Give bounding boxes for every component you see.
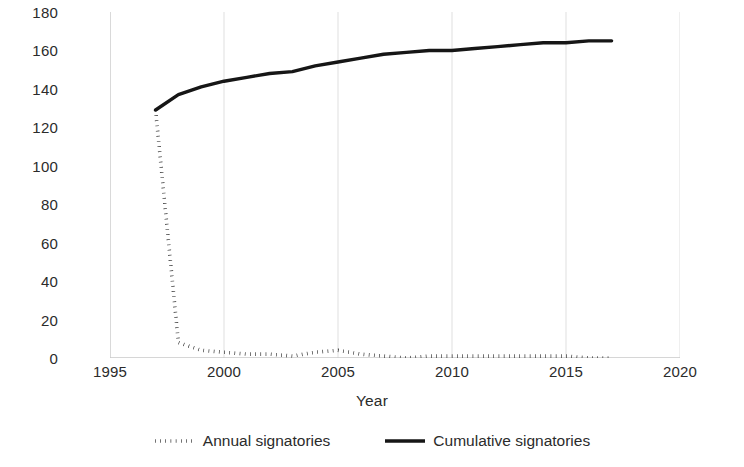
chart-legend: Annual signatories Cumulative signatorie… <box>0 432 744 450</box>
legend-label-cumulative: Cumulative signatories <box>433 432 590 450</box>
legend-item-cumulative: Cumulative signatories <box>384 432 590 450</box>
y-tick-label: 120 <box>0 119 58 136</box>
x-tick-label: 2020 <box>645 363 715 380</box>
x-tick-label: 2015 <box>531 363 601 380</box>
legend-label-annual: Annual signatories <box>203 432 331 450</box>
x-tick-label: 2005 <box>303 363 373 380</box>
chart-canvas <box>110 12 680 358</box>
legend-key-dotted-icon <box>154 436 196 446</box>
x-tick-label: 2000 <box>189 363 259 380</box>
vertical-gridlines <box>224 12 680 358</box>
y-tick-label: 60 <box>0 234 58 251</box>
x-axis-title: Year <box>0 392 744 410</box>
y-tick-label: 40 <box>0 273 58 290</box>
chart-figure: Annual/Cumulative Signtory States 020406… <box>0 0 744 467</box>
y-tick-label: 160 <box>0 42 58 59</box>
legend-key-solid-icon <box>384 436 426 446</box>
y-tick-label: 100 <box>0 157 58 174</box>
y-tick-label: 20 <box>0 311 58 328</box>
y-tick-label: 0 <box>0 350 58 367</box>
plot-area <box>110 12 680 358</box>
y-tick-label: 80 <box>0 196 58 213</box>
x-tick-label: 2010 <box>417 363 487 380</box>
y-tick-label: 140 <box>0 80 58 97</box>
x-tick-label: 1995 <box>75 363 145 380</box>
y-tick-label: 180 <box>0 4 58 21</box>
legend-item-annual: Annual signatories <box>154 432 331 450</box>
